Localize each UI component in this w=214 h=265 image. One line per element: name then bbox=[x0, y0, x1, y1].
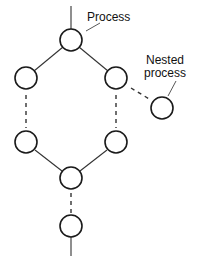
process-label-leader bbox=[86, 23, 100, 31]
process-node-right-upper bbox=[105, 67, 127, 89]
edge-top-left bbox=[34, 47, 63, 71]
process-label: Process bbox=[87, 10, 130, 24]
process-node-join bbox=[60, 167, 82, 189]
process-node-left-upper bbox=[15, 67, 37, 89]
nested-label-line1: Nested bbox=[146, 53, 184, 67]
edge-right-join bbox=[80, 150, 107, 171]
process-diagram: Process Nested process bbox=[0, 0, 214, 265]
process-node-right-lower bbox=[105, 131, 127, 153]
nested-label-leader bbox=[168, 81, 176, 96]
process-node-left-lower bbox=[15, 131, 37, 153]
process-node-final bbox=[60, 215, 82, 237]
edge-nested-dashed bbox=[131, 88, 151, 100]
nested-process-node bbox=[151, 97, 173, 119]
nested-label-line2: process bbox=[144, 66, 186, 80]
edge-left-join bbox=[35, 150, 62, 171]
edge-top-right bbox=[79, 47, 108, 71]
process-node-top bbox=[60, 29, 82, 51]
